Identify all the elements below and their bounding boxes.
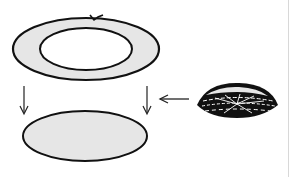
left-arrow (160, 95, 189, 103)
down-arrow-right (143, 86, 151, 114)
down-arrow-left (20, 86, 28, 114)
dome-shape (197, 83, 278, 118)
ring-shape (13, 15, 159, 80)
page-edge-rule (288, 0, 289, 177)
disc-shape (23, 111, 147, 161)
assembly-diagram (0, 0, 290, 177)
